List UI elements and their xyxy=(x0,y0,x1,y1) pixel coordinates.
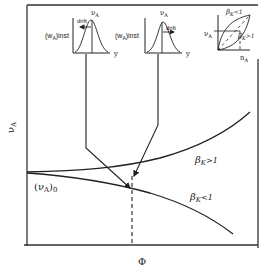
inset-distribution-left: (wA)inst drift νA y xyxy=(45,9,118,58)
arrow-from-left-inset xyxy=(86,54,130,188)
inset-composition-plot: βK<1 βK>1 νA nA xyxy=(204,4,266,63)
y-axis-label: νA xyxy=(5,121,18,133)
label-beta-lt-1: βK<1 xyxy=(189,191,213,204)
svg-text:νA: νA xyxy=(160,9,168,18)
label-origin-nuA0: (νA)0 xyxy=(34,181,57,194)
curve-beta-lt-1 xyxy=(27,173,233,234)
arrow-from-right-inset xyxy=(134,54,158,176)
svg-text:drift: drift xyxy=(77,18,87,24)
label-beta-gt-1: βK>1 xyxy=(194,154,218,167)
x-axis-label: Φ xyxy=(138,256,146,267)
svg-text:y: y xyxy=(185,50,190,58)
diagram-canvas: νA Φ βK>1 βK<1 (νA)0 (wA)inst drift νA y… xyxy=(0,0,266,270)
inset1-title: (wA)inst xyxy=(45,32,69,41)
svg-text:y: y xyxy=(113,50,118,58)
inset2-title: (wA)inst xyxy=(115,32,139,41)
inset-distribution-right: (wA)inst drift νA y xyxy=(115,9,190,58)
svg-text:νA: νA xyxy=(91,9,99,18)
svg-text:drift: drift xyxy=(166,25,176,31)
